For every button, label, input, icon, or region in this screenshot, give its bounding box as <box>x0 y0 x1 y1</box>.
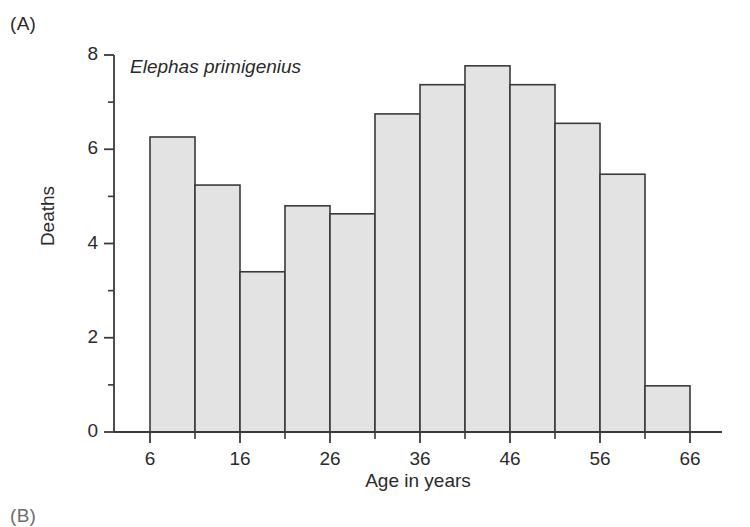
histogram-bar <box>600 174 645 432</box>
x-tick-label: 6 <box>125 448 175 470</box>
histogram-bar <box>645 386 690 432</box>
histogram-bar <box>510 85 555 432</box>
x-tick-label: 66 <box>665 448 715 470</box>
y-tick-label: 0 <box>58 420 98 442</box>
y-tick-label: 4 <box>58 232 98 254</box>
y-tick-label: 8 <box>58 43 98 65</box>
histogram-bar <box>375 114 420 432</box>
y-tick-label: 6 <box>58 137 98 159</box>
next-panel-letter: (B) <box>10 505 36 527</box>
histogram-bar <box>330 214 375 432</box>
histogram-bar <box>555 123 600 432</box>
x-tick-label: 26 <box>305 448 355 470</box>
histogram-bar <box>465 66 510 432</box>
x-tick-label: 56 <box>575 448 625 470</box>
x-tick-label: 36 <box>395 448 445 470</box>
x-tick-label: 16 <box>215 448 265 470</box>
histogram-bar <box>285 206 330 432</box>
histogram-bar <box>150 137 195 432</box>
bars-layer <box>150 66 690 432</box>
x-tick-label: 46 <box>485 448 535 470</box>
histogram-bar <box>240 272 285 432</box>
histogram-bar <box>420 85 465 432</box>
histogram-bar <box>195 185 240 432</box>
y-tick-label: 2 <box>58 326 98 348</box>
